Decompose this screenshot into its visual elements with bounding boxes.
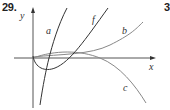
graph-canvas [0, 0, 170, 110]
graph-figure: 29. 3 y x a f b c [0, 0, 170, 110]
curve-c-label: c [123, 83, 127, 93]
curve-f-label: f [92, 15, 95, 25]
y-axis-arrow-icon [31, 7, 35, 13]
curve-c [33, 52, 146, 103]
curve-a [40, 8, 67, 105]
curve-b-label: b [122, 26, 127, 36]
x-axis-arrow-icon [150, 56, 156, 60]
y-axis-label: y [20, 11, 24, 21]
curve-f [33, 8, 108, 70]
x-axis-label: x [149, 62, 153, 72]
curve-a-label: a [46, 26, 51, 36]
